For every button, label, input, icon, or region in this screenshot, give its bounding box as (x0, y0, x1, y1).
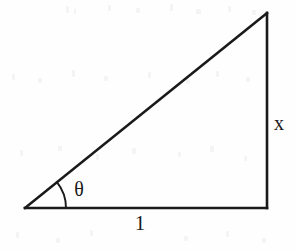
angle-label-theta: θ (69, 179, 89, 199)
angle-arc (57, 182, 66, 208)
triangle-side-hypotenuse (25, 13, 267, 208)
side-label-opposite-x: x (269, 113, 289, 133)
side-label-base-1: 1 (126, 213, 154, 234)
figure-canvas: θ x 1 (0, 0, 295, 251)
